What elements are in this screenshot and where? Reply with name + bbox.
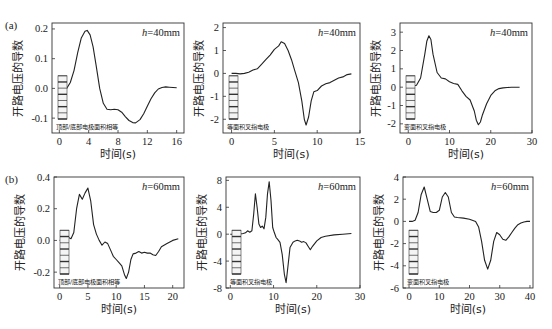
- y-tick-label: 0.1: [35, 53, 48, 64]
- x-tick-label: 5: [272, 136, 277, 147]
- y-tick-label: -2: [390, 238, 399, 249]
- x-tick-label: 40: [525, 291, 536, 302]
- x-axis-label: 时间(s): [273, 148, 309, 161]
- subplot-b-middle: 0102030-8-4048时间(s)开路电压的导数h=60mm等面积叉指电极: [195, 175, 365, 316]
- electrode-inset-icon: [409, 230, 418, 274]
- y-tick-label: -0.2: [33, 267, 50, 278]
- row-label-b: (b): [5, 173, 18, 186]
- x-tick-label: 4: [86, 136, 92, 147]
- x-axis-label: 时间(s): [101, 303, 137, 316]
- y-tick-label: 2: [394, 194, 399, 205]
- y-axis-label: 开路电压的导数: [11, 40, 25, 117]
- x-tick-label: 10: [444, 136, 455, 147]
- y-tick-label: -1: [210, 91, 219, 102]
- data-line: [230, 182, 351, 283]
- y-tick-label: 0.4: [37, 172, 51, 183]
- x-tick-label: 0: [57, 291, 62, 302]
- x-tick-label: 20: [312, 291, 323, 302]
- electrode-type-label: 顶部/底部电极面积相等: [58, 278, 120, 286]
- y-tick-label: 2: [214, 22, 219, 33]
- y-tick-label: 0: [214, 68, 219, 79]
- y-tick-label: 8: [217, 175, 222, 186]
- x-axis-label: 时间(s): [275, 303, 311, 316]
- x-axis-label: 时间(s): [448, 148, 484, 161]
- y-tick-label: 0: [217, 229, 222, 240]
- electrode-type-label: 等面积叉指电极: [230, 278, 272, 286]
- y-tick-label: -8: [213, 283, 222, 294]
- electrode-type-label: 等面积叉指电极: [227, 123, 269, 131]
- subplot-a-left: 0481216-0.10.00.10.2时间(s)开路电压的导数h=40mm顶部…: [11, 23, 184, 161]
- x-tick-label: 0: [228, 291, 233, 302]
- axes-frame: [400, 23, 532, 133]
- data-line: [232, 42, 352, 125]
- subplot-a-middle: 051015-2-1012时间(s)开路电压的导数h=40mm等面积叉指电极: [192, 22, 365, 161]
- y-tick-label: 0.2: [35, 23, 48, 34]
- y-tick-label: 4: [217, 202, 223, 213]
- x-tick-label: 20: [167, 291, 178, 302]
- electrode-type-label: 变面积叉指电极: [407, 278, 449, 286]
- x-tick-label: 0: [406, 136, 411, 147]
- x-tick-label: 16: [171, 136, 182, 147]
- y-tick-label: 2: [391, 45, 396, 56]
- height-annotation: h=60mm: [318, 181, 356, 192]
- y-tick-label: 0.0: [37, 235, 50, 246]
- subplot-a-right: 0102030-2-10123时间(s)开路电压的导数h=40mm变面积叉指电极: [369, 23, 537, 161]
- y-tick-label: 1: [214, 45, 219, 56]
- x-tick-label: 8: [115, 136, 120, 147]
- y-axis-label: 开路电压的导数: [13, 194, 27, 271]
- subplot-b-right: 010203040-6-4-2024时间(s)开路电压的导数h=60mm变面积叉…: [372, 172, 535, 317]
- x-tick-label: 15: [139, 291, 150, 302]
- data-line: [409, 187, 530, 269]
- y-tick-label: 0: [394, 216, 399, 227]
- electrode-inset-icon: [58, 76, 67, 119]
- y-axis-label: 开路电压的导数: [195, 194, 209, 271]
- x-tick-label: 5: [85, 291, 90, 302]
- axes-frame: [403, 177, 533, 288]
- x-tick-label: 10: [312, 136, 323, 147]
- subplot-b-left: 05101520-0.20.00.20.4时间(s)开路电压的导数h=60mm顶…: [13, 172, 184, 317]
- x-tick-label: 0: [229, 136, 234, 147]
- y-tick-label: -0.1: [31, 113, 48, 124]
- x-tick-label: 20: [486, 136, 497, 147]
- height-annotation: h=40mm: [142, 27, 180, 38]
- data-line: [60, 188, 179, 278]
- x-tick-label: 10: [111, 291, 122, 302]
- y-tick-label: -2: [387, 118, 396, 129]
- y-tick-label: -6: [390, 283, 399, 294]
- electrode-inset-icon: [232, 230, 241, 274]
- y-tick-label: -1: [387, 100, 396, 111]
- electrode-inset-icon: [229, 76, 238, 119]
- x-tick-label: 30: [355, 291, 366, 302]
- electrode-inset-icon: [60, 230, 69, 274]
- y-tick-label: 3: [391, 27, 396, 38]
- x-tick-label: 15: [355, 136, 366, 147]
- x-axis-label: 时间(s): [450, 303, 486, 316]
- y-tick-label: 0.0: [35, 83, 48, 94]
- y-axis-label: 开路电压的导数: [372, 194, 386, 271]
- y-tick-label: 4: [394, 172, 400, 183]
- y-axis-label: 开路电压的导数: [369, 40, 383, 117]
- electrode-type-label: 顶部/底部电极面积相等: [56, 123, 118, 131]
- y-tick-label: 0: [391, 82, 396, 93]
- data-line: [408, 36, 519, 125]
- y-tick-label: -2: [210, 114, 219, 125]
- x-axis-label: 时间(s): [100, 148, 136, 161]
- height-annotation: h=40mm: [318, 27, 356, 38]
- x-tick-label: 10: [434, 291, 445, 302]
- electrode-inset-icon: [406, 76, 415, 119]
- x-tick-label: 0: [57, 136, 62, 147]
- x-tick-label: 30: [494, 291, 505, 302]
- x-tick-label: 0: [406, 291, 411, 302]
- height-annotation: h=60mm: [491, 181, 529, 192]
- x-tick-label: 12: [142, 136, 153, 147]
- figure: (a) (b) 0481216-0.10.00.10.2时间(s)开路电压的导数…: [0, 0, 552, 329]
- x-tick-label: 20: [464, 291, 475, 302]
- y-tick-label: 0.2: [37, 203, 50, 214]
- data-line: [59, 30, 176, 123]
- y-tick-label: -4: [213, 256, 222, 267]
- electrode-type-label: 变面积叉指电极: [404, 123, 446, 131]
- row-label-a: (a): [5, 19, 18, 32]
- y-tick-label: -4: [390, 260, 399, 271]
- height-annotation: h=60mm: [142, 181, 180, 192]
- y-axis-label: 开路电压的导数: [192, 40, 206, 117]
